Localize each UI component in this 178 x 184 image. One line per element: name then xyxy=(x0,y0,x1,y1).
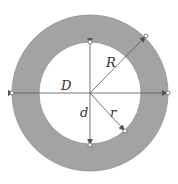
label-D: D xyxy=(60,78,72,93)
point-bottom xyxy=(88,143,92,147)
inner-radius-line xyxy=(90,93,124,130)
point-right xyxy=(166,91,170,95)
point-left xyxy=(10,91,14,95)
label-d: d xyxy=(80,105,88,120)
label-r: r xyxy=(110,105,117,120)
annulus-diagram: D R d r xyxy=(0,0,178,184)
point-inner-radius xyxy=(123,129,127,133)
point-top xyxy=(88,40,92,44)
label-R: R xyxy=(105,55,116,70)
point-outer-radius xyxy=(144,34,148,38)
